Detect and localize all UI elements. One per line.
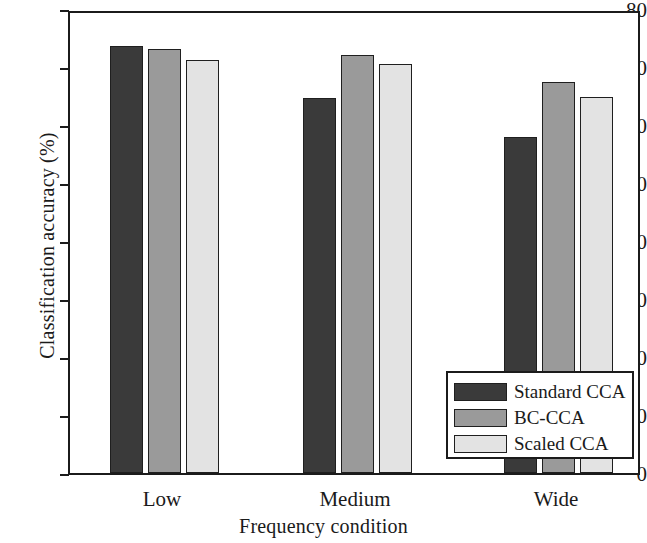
bar-medium-bc-cca (341, 55, 374, 473)
y-axis-title: Classification accuracy (%) (36, 16, 59, 476)
legend-item: Scaled CCA (454, 431, 632, 456)
bar-chart-figure: Classification accuracy (%) 010203040506… (0, 0, 647, 543)
x-axis-tick-label-medium: Medium (319, 487, 390, 512)
bar-low-scaled-cca (186, 60, 219, 473)
x-axis-tick-label-wide: Wide (534, 487, 579, 512)
legend-item-label: Scaled CCA (514, 434, 608, 453)
legend-swatch-icon (454, 409, 507, 427)
bar-low-standard-cca (110, 46, 143, 473)
x-axis-tick-label-low: Low (143, 487, 182, 512)
legend-swatch-icon (454, 435, 507, 453)
bar-medium-standard-cca (303, 98, 336, 473)
legend-item-label: Standard CCA (514, 382, 625, 401)
x-axis-title: Frequency condition (0, 515, 647, 538)
legend-item-label: BC-CCA (514, 408, 585, 427)
bar-low-bc-cca (148, 49, 181, 473)
legend-item: Standard CCA (454, 379, 632, 404)
legend-swatch-icon (454, 383, 507, 401)
legend-item: BC-CCA (454, 405, 632, 430)
bar-medium-scaled-cca (379, 64, 412, 473)
chart-legend: Standard CCABC-CCAScaled CCA (446, 371, 634, 459)
